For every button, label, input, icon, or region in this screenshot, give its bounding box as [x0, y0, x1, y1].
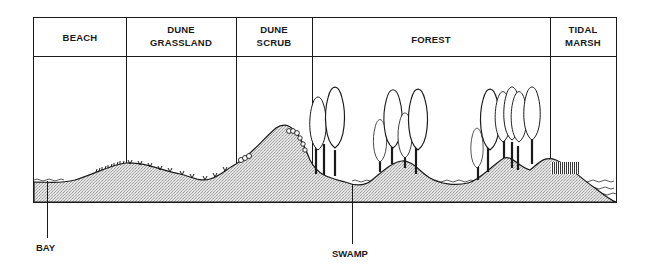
- zone-headers: BEACH DUNE GRASSLAND DUNE SCRUB FOREST T…: [63, 24, 601, 48]
- zone-label-dune-grassland-line1: DUNE: [167, 24, 195, 35]
- bay-label: BAY: [36, 242, 56, 253]
- zone-label-forest: FOREST: [411, 34, 451, 45]
- zone-label-dune-grassland-line2: GRASSLAND: [150, 37, 212, 48]
- zone-label-tidal-marsh-line1: TIDAL: [569, 24, 598, 35]
- marsh-grass: [551, 162, 579, 174]
- zone-label-tidal-marsh-line2: MARSH: [565, 37, 601, 48]
- zone-label-dune-scrub-line2: SCRUB: [257, 37, 292, 48]
- zone-label-dune-scrub-line1: DUNE: [260, 24, 288, 35]
- swamp-label: SWAMP: [332, 248, 369, 259]
- coastal-profile-diagram: BEACH DUNE GRASSLAND DUNE SCRUB FOREST T…: [0, 0, 648, 270]
- zone-label-beach: BEACH: [63, 32, 98, 43]
